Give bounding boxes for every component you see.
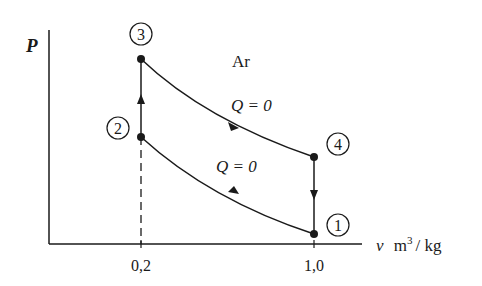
process-1-2: [141, 137, 314, 234]
upper-q-label: Q = 0: [231, 96, 272, 115]
lower-q-label: Q = 0: [216, 157, 257, 176]
x-tick-label-0-2: 0,2: [131, 257, 151, 274]
x-axis-label: v m3/ kg: [376, 234, 442, 255]
arrow-up-icon: [137, 94, 145, 104]
x-tick-label-1-0: 1,0: [304, 257, 324, 274]
svg-text:2: 2: [114, 120, 122, 137]
svg-text:1: 1: [334, 217, 342, 234]
state-label-1: 1: [327, 214, 349, 236]
arrow-left-icon: [228, 186, 239, 194]
process-3-4: [141, 59, 314, 157]
state-label-2: 2: [107, 117, 129, 139]
state-point-3: [137, 55, 145, 63]
gas-label: Ar: [232, 52, 250, 71]
state-point-2: [137, 133, 145, 141]
pv-diagram: P v m3/ kg 0,2 1,0 3 2 4 1 Ar Q =: [0, 0, 482, 286]
svg-text:3: 3: [137, 26, 145, 43]
svg-text:4: 4: [334, 136, 342, 153]
state-point-1: [310, 230, 318, 238]
y-axis-label: P: [25, 35, 38, 56]
arrow-down-icon: [310, 190, 318, 200]
state-label-3: 3: [130, 23, 152, 45]
state-point-4: [310, 153, 318, 161]
state-label-4: 4: [327, 133, 349, 155]
